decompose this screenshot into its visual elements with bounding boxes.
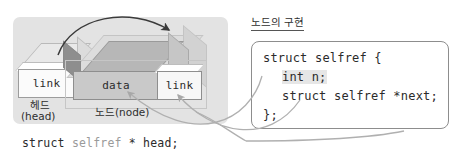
head-declaration-code: struct selfref * head;	[22, 136, 179, 150]
node-link-cell: link	[157, 71, 202, 100]
diagram-canvas: link data link 헤드 (head) 노드(node) struct…	[0, 0, 466, 158]
head-declaration-prefix: struct	[22, 136, 72, 150]
code-box-to-declaration-connector	[246, 131, 404, 141]
head-declaration-suffix: * head;	[122, 136, 179, 150]
code-line-2: struct selfref *next;	[282, 89, 438, 103]
code-line-0: struct selfref {	[263, 49, 448, 68]
head-declaration-type: selfref	[72, 136, 122, 150]
node-data-cell-label: data	[102, 79, 130, 92]
head-link-cell-label: link	[33, 77, 61, 90]
code-panel-box: struct selfref { int n; struct selfref *…	[251, 41, 449, 129]
code-line-1: int n;	[282, 70, 327, 84]
code-panel-title: 노드의 구현	[251, 14, 304, 31]
node-caption: 노드(node)	[95, 104, 149, 119]
node-data-cell: data	[73, 71, 159, 100]
code-line-1-wrapper: int n;	[263, 68, 448, 87]
code-line-2-wrapper: struct selfref *next;	[263, 87, 448, 106]
node-link-cell-label: link	[166, 79, 194, 92]
head-caption-english: (head)	[21, 110, 55, 122]
code-line-3: };	[263, 106, 448, 125]
